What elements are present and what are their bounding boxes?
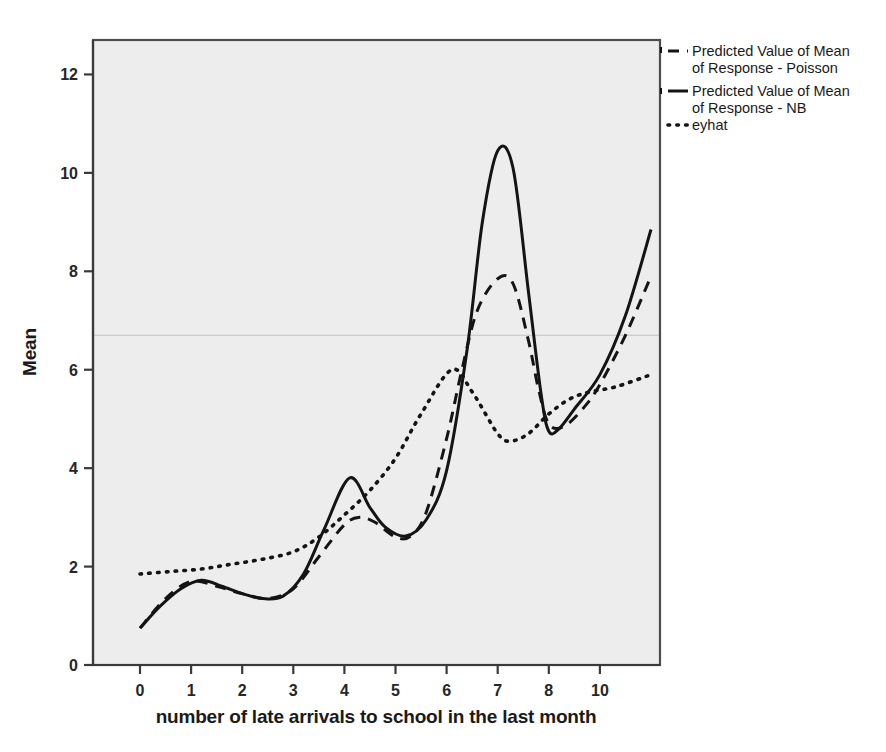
- chart-svg: 024681012 01234567810 Mean number of lat…: [0, 0, 886, 752]
- y-axis-title: Mean: [19, 328, 40, 376]
- chart-legend: Predicted Value of Meanof Response - Poi…: [661, 43, 850, 133]
- y-tick-label: 12: [60, 66, 78, 83]
- y-tick-label: 0: [69, 657, 78, 674]
- x-tick-label: 10: [591, 682, 609, 699]
- x-tick-label: 4: [340, 682, 349, 699]
- x-axis-ticks: 01234567810: [136, 665, 609, 699]
- x-tick-label: 3: [289, 682, 298, 699]
- x-tick-label: 8: [544, 682, 553, 699]
- x-tick-label: 0: [136, 682, 145, 699]
- y-tick-label: 2: [69, 559, 78, 576]
- y-tick-label: 6: [69, 362, 78, 379]
- chart-figure: 024681012 01234567810 Mean number of lat…: [0, 0, 886, 752]
- x-tick-label: 5: [391, 682, 400, 699]
- x-tick-label: 6: [442, 682, 451, 699]
- legend-entry-label: eyhat: [692, 117, 727, 133]
- y-tick-label: 10: [60, 165, 78, 182]
- legend-entry-label: Predicted Value of Mean: [692, 83, 850, 99]
- legend-entry-label: Predicted Value of Mean: [692, 43, 850, 59]
- legend-entry-label-line2: of Response - NB: [692, 100, 806, 116]
- legend-entry-label-line2: of Response - Poisson: [692, 60, 838, 76]
- y-tick-label: 8: [69, 263, 78, 280]
- y-tick-label: 4: [69, 460, 78, 477]
- y-axis-ticks: 024681012: [60, 66, 93, 674]
- x-tick-label: 2: [238, 682, 247, 699]
- x-axis-title: number of late arrivals to school in the…: [156, 706, 597, 727]
- x-tick-label: 7: [493, 682, 502, 699]
- x-tick-label: 1: [187, 682, 196, 699]
